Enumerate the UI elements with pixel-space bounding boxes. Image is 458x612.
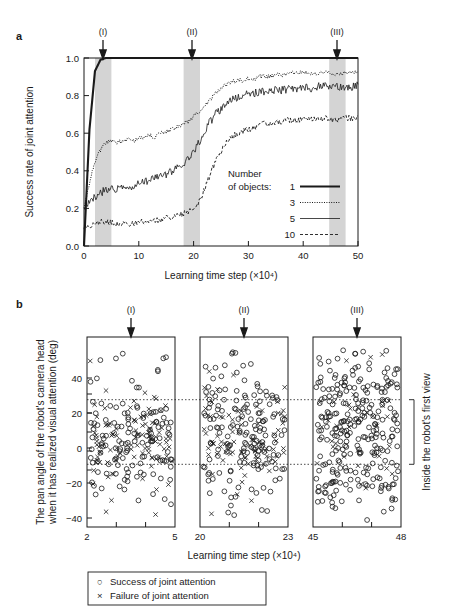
scatter-point-failure (384, 466, 388, 470)
panel-b-yticks: 40 20 0 −20 −40 (66, 373, 92, 524)
scatter-point-success (385, 449, 390, 454)
scatter-point-success (339, 499, 344, 504)
scatter-point-success (317, 356, 322, 361)
scatter-point-success (234, 398, 239, 403)
scatter-point-success (333, 373, 338, 378)
scatter-point-success (232, 513, 237, 518)
scatter-point-failure (159, 408, 163, 412)
legend-symbol-failure: × (97, 590, 103, 601)
scatter-point-success (395, 444, 400, 449)
scatter-point-failure (104, 388, 108, 392)
scatter-point-success (383, 458, 388, 463)
scatter-point-failure (147, 407, 151, 411)
scatter-point-failure (164, 440, 168, 444)
scatter-point-failure (230, 418, 234, 422)
scatter-point-failure (91, 482, 95, 486)
panel-b-ytick-0: 0 (77, 443, 82, 454)
scatter-point-failure (232, 440, 236, 444)
scatter-point-success (367, 425, 372, 430)
scatter-point-success (203, 364, 208, 369)
panel-b-sub3-xmax: 48 (396, 531, 407, 542)
scatter-point-success (336, 458, 341, 463)
scatter-point-failure (348, 406, 352, 410)
scatter-point-success (342, 383, 347, 388)
scatter-point-failure (249, 498, 253, 502)
panel-a-ytick-4: 0.2 (66, 203, 79, 214)
scatter-point-success (207, 491, 212, 496)
scatter-point-failure (273, 460, 277, 464)
curve-objects-5 (84, 82, 358, 210)
panel-a-legend: Number of objects: 1 3 5 10 (228, 168, 340, 240)
panel-a-ytick-2: 0.6 (66, 128, 79, 139)
scatter-point-success (323, 484, 328, 489)
scatter-point-success (273, 466, 278, 471)
scatter-point-success (318, 454, 323, 459)
scatter-point-failure (276, 428, 280, 432)
panel-a-ytick-1: 0.8 (66, 90, 79, 101)
scatter-point-failure (129, 443, 133, 447)
scatter-point-success (243, 421, 248, 426)
scatter-point-success (317, 468, 322, 473)
scatter-point-success (396, 469, 401, 474)
scatter-point-success (223, 387, 228, 392)
scatter-point-success (94, 376, 99, 381)
scatter-point-success (125, 479, 130, 484)
scatter-point-success (345, 412, 350, 417)
panel-b-marker-2: (II) (239, 305, 250, 315)
figure-svg: a 1.0 0.8 0.6 0.4 0.2 0.0 (0, 0, 458, 612)
scatter-point-success (168, 464, 173, 469)
scatter-point-success (314, 385, 319, 390)
scatter-point-success (136, 498, 141, 503)
panel-a-xtick-0: 0 (81, 250, 86, 261)
panel-b-ylabel-line2: when it has realized visual attention (d… (47, 340, 58, 525)
scatter-point-success (208, 426, 213, 431)
scatter-point-failure (104, 510, 108, 514)
figure-root: a 1.0 0.8 0.6 0.4 0.2 0.0 (0, 0, 458, 612)
scatter-point-failure (157, 430, 161, 434)
scatter-point-success (360, 406, 365, 411)
scatter-point-success (241, 363, 246, 368)
scatter-point-failure (162, 447, 166, 451)
legend-label-failure: Failure of joint attention (110, 590, 209, 601)
scatter-point-success (217, 388, 222, 393)
scatter-point-success (384, 348, 389, 353)
scatter-point-success (156, 425, 161, 430)
scatter-point-success (390, 427, 395, 432)
scatter-point-success (343, 482, 348, 487)
panel-b-ytick-20: 20 (71, 408, 82, 419)
panel-b-subplot-1-frame (87, 337, 175, 527)
scatter-point-success (114, 405, 119, 410)
panel-a-letter: a (16, 30, 23, 42)
panel-a-ylabel: Success rate of joint attention (24, 86, 35, 217)
scatter-point-success (108, 403, 113, 408)
scatter-point-failure (239, 423, 243, 427)
scatter-point-success (344, 445, 349, 450)
panel-b-markers: (I) (II) (III) (127, 305, 364, 337)
scatter-point-failure (98, 450, 102, 454)
scatter-point-success (217, 431, 222, 436)
scatter-point-success (385, 366, 390, 371)
scatter-point-success (158, 476, 163, 481)
scatter-point-failure (380, 352, 384, 356)
scatter-point-success (254, 491, 259, 496)
legend-title-line1: Number (228, 168, 262, 179)
scatter-point-failure (281, 446, 285, 450)
scatter-point-success (169, 502, 174, 507)
scatter-point-success (267, 446, 272, 451)
panel-a-curves (84, 58, 358, 246)
scatter-point-success (317, 401, 322, 406)
scatter-point-success (371, 477, 376, 482)
scatter-point-success (353, 470, 358, 475)
scatter-point-success (88, 455, 93, 460)
scatter-point-success (268, 489, 273, 494)
scatter-point-success (229, 503, 234, 508)
scatter-point-success (335, 356, 340, 361)
scatter-point-success (343, 465, 348, 470)
scatter-point-failure (385, 414, 389, 418)
scatter-point-success (330, 402, 335, 407)
scatter-point-failure (282, 450, 286, 454)
scatter-point-success (166, 426, 171, 431)
scatter-point-success (226, 510, 231, 515)
panel-b-letter: b (16, 298, 23, 310)
scatter-point-failure (143, 391, 147, 395)
